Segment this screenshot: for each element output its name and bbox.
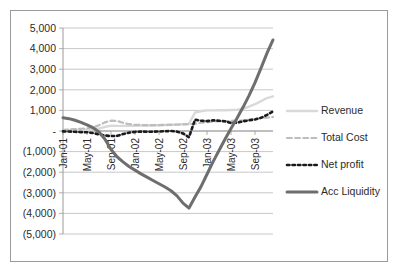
y-tick-label: 3,000 — [30, 63, 56, 75]
y-tick-label: (2,000) — [23, 166, 56, 178]
x-tick-label: Sep-03 — [250, 138, 261, 171]
chart-frame: 5,0004,0003,0002,0001,000-(1,000)(2,000)… — [10, 10, 388, 262]
legend-label-revenue: Revenue — [321, 104, 363, 116]
legend-label-total-cost: Total Cost — [321, 131, 368, 143]
y-tick-label: - — [53, 125, 57, 137]
chart-legend: RevenueTotal CostNet profitAcc Liquidity — [287, 104, 381, 197]
x-axis-tick-labels: Jan-01May-01Sep-01Jan-02May-02Sep-02Jan-… — [58, 138, 261, 172]
y-tick-label: 1,000 — [30, 104, 56, 116]
data-series — [63, 40, 273, 208]
y-tick-label: 2,000 — [30, 84, 56, 96]
x-tick-label: Jan-01 — [58, 138, 69, 169]
x-tick-label: May-01 — [82, 138, 93, 172]
y-tick-label: (1,000) — [23, 145, 56, 157]
x-tick-label: Sep-02 — [178, 138, 189, 171]
line-chart: 5,0004,0003,0002,0001,000-(1,000)(2,000)… — [11, 11, 387, 261]
x-tick-label: Jan-02 — [130, 138, 141, 169]
y-tick-label: (3,000) — [23, 187, 56, 199]
legend-label-net-profit: Net profit — [321, 158, 364, 170]
x-tick-label: May-02 — [154, 138, 165, 172]
y-axis-tick-labels: 5,0004,0003,0002,0001,000-(1,000)(2,000)… — [23, 22, 57, 240]
y-tick-label: (4,000) — [23, 207, 56, 219]
x-tick-label: May-03 — [226, 138, 237, 172]
legend-label-acc-liquidity: Acc Liquidity — [321, 185, 381, 197]
y-tick-label: (5,000) — [23, 228, 56, 240]
y-tick-label: 5,000 — [30, 22, 56, 34]
y-tick-label: 4,000 — [30, 42, 56, 54]
